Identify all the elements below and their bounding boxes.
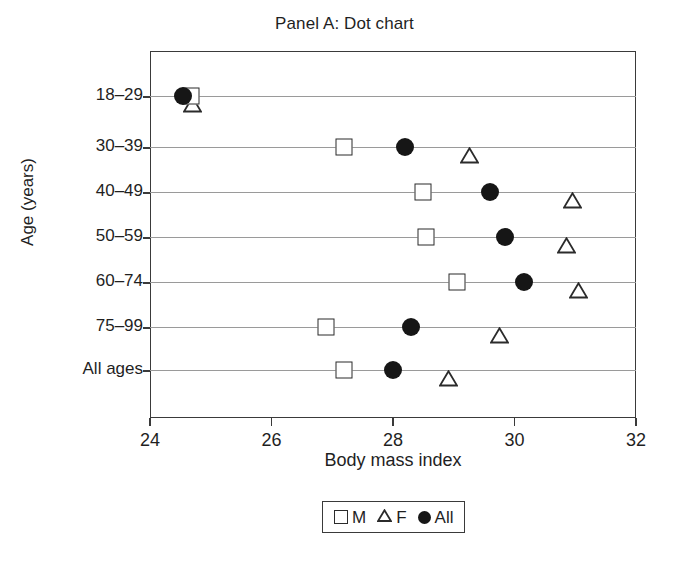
x-axis-tick-label: 26 (261, 430, 281, 451)
y-axis-label: 75–99 (96, 316, 143, 336)
legend-label: F (396, 509, 406, 526)
legend-label: All (435, 509, 454, 526)
data-point-All-40-49 (481, 183, 499, 201)
y-axis-label: All ages (83, 359, 143, 379)
y-tick-5 (143, 327, 150, 329)
data-point-M-75-99 (318, 319, 335, 336)
data-point-All-30-39 (396, 138, 414, 156)
data-point-M-all-ages (336, 362, 353, 379)
x-axis-title: Body mass index (150, 450, 636, 471)
legend-label: M (352, 509, 366, 526)
chart-title: Panel A: Dot chart (0, 14, 689, 34)
x-tick-32 (635, 418, 637, 426)
data-point-All-75-99 (402, 318, 420, 336)
data-point-M-40-49 (415, 184, 432, 201)
y-axis-title: Age (years) (18, 102, 38, 302)
data-point-All-all-ages (384, 361, 402, 379)
x-axis-tick-label: 30 (504, 430, 524, 451)
x-axis-tick-label: 28 (383, 430, 403, 451)
x-axis-tick-label: 32 (626, 430, 646, 451)
y-tick-2 (143, 192, 150, 194)
y-tick-4 (143, 282, 150, 284)
y-axis-label: 60–74 (96, 271, 143, 291)
dot-chart-figure: Panel A: Dot chart 18–2930–3940–4950–596… (0, 0, 689, 568)
data-point-All-50-59 (496, 228, 514, 246)
data-points-layer (150, 51, 636, 418)
y-tick-0 (143, 96, 150, 98)
legend-item-m: M (331, 509, 369, 526)
y-tick-3 (143, 237, 150, 239)
data-point-All-18-29 (174, 87, 192, 105)
legend-open-triangle-icon (377, 508, 392, 526)
x-tick-24 (149, 418, 151, 426)
legend-item-f: F (374, 508, 409, 526)
y-axis-label: 40–49 (96, 181, 143, 201)
y-tick-1 (143, 147, 150, 149)
y-tick-6 (143, 370, 150, 372)
y-axis-label: 50–59 (96, 226, 143, 246)
data-point-M-60-74 (448, 274, 465, 291)
legend-open-square-icon (334, 510, 348, 524)
data-point-M-30-39 (336, 139, 353, 156)
y-axis-label: 18–29 (96, 85, 143, 105)
legend-item-all: All (415, 509, 457, 526)
x-axis-tick-label: 24 (140, 430, 160, 451)
x-tick-30 (514, 418, 516, 426)
data-point-M-50-59 (418, 229, 435, 246)
y-axis-label: 30–39 (96, 136, 143, 156)
data-point-All-60-74 (515, 273, 533, 291)
x-tick-26 (271, 418, 273, 426)
x-tick-28 (392, 418, 394, 426)
chart-legend: MFAll (322, 501, 465, 533)
legend-filled-circle-icon (418, 511, 431, 524)
